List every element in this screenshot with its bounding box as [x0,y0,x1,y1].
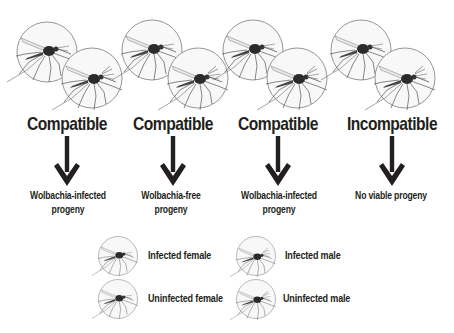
diagram-canvas [0,0,454,333]
cross-1-result-heading: Compatible [22,113,112,135]
legend-infected-female-icon [92,237,138,276]
cross-3-offspring-line-2: progeny [230,202,328,216]
cross-3-offspring-line-1: Wolbachia-infected [230,188,328,202]
legend-infected-male-icon [230,237,276,277]
cross-4-offspring-line-1: No viable progeny [342,188,440,202]
cross-3-offspring: Wolbachia-infected progeny [230,188,328,216]
cross-1-offspring: Wolbachia-infected progeny [19,188,117,216]
legend-uninfected-female-icon [92,280,138,319]
legend-infected-male-label: Infected male [285,249,341,261]
cross-2-offspring: Wolbachia-free progeny [122,188,220,216]
legend-uninfected-male-icon [230,280,276,320]
arrow-down-icon [265,136,291,186]
cross-4-offspring: No viable progeny [342,188,440,202]
arrow-down-icon [160,136,186,186]
cross-2-result-heading: Compatible [128,113,218,135]
cross-1-offspring-line-1: Wolbachia-infected [19,188,117,202]
legend-uninfected-female-label: Uninfected female [148,292,223,304]
legend-uninfected-male-label: Uninfected male [283,292,350,304]
cross-1-offspring-line-2: progeny [19,202,117,216]
cross-2-offspring-line-1: Wolbachia-free [122,188,220,202]
arrow-down-icon [379,136,405,186]
cross-3-result-heading: Compatible [233,113,323,135]
arrow-down-icon [54,136,80,186]
cross-4-result-heading: Incompatible [347,113,437,135]
legend-infected-female-label: Infected female [148,249,211,261]
cross-2-offspring-line-2: progeny [122,202,220,216]
